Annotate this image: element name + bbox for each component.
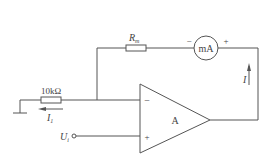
current-i1-label: I1: [46, 112, 53, 124]
resistor-10k-label: 10kΩ: [41, 86, 62, 96]
ammeter-label: mA: [199, 43, 215, 54]
ammeter-minus: −: [186, 36, 191, 46]
current-i-label: I: [242, 74, 247, 85]
ground-wire: [20, 100, 41, 113]
output-wire: [210, 48, 258, 120]
circuit-diagram: Rm mA − + I 10kΩ I1 Ui A − +: [0, 0, 271, 166]
inverting-sign: −: [144, 95, 150, 106]
arrow-left-icon: [38, 107, 46, 111]
noninverting-sign: +: [144, 132, 149, 142]
input-terminal: [72, 134, 76, 138]
feedback-resistor-rm: [126, 45, 146, 51]
ammeter-plus: +: [223, 36, 228, 46]
op-amp-label: A: [171, 115, 179, 126]
arrow-up-icon: [247, 63, 251, 71]
rm-label: Rm: [128, 32, 140, 44]
ui-label: Ui: [60, 131, 69, 143]
feedback-wire-left: [97, 48, 126, 100]
input-resistor-10k: [41, 97, 61, 103]
